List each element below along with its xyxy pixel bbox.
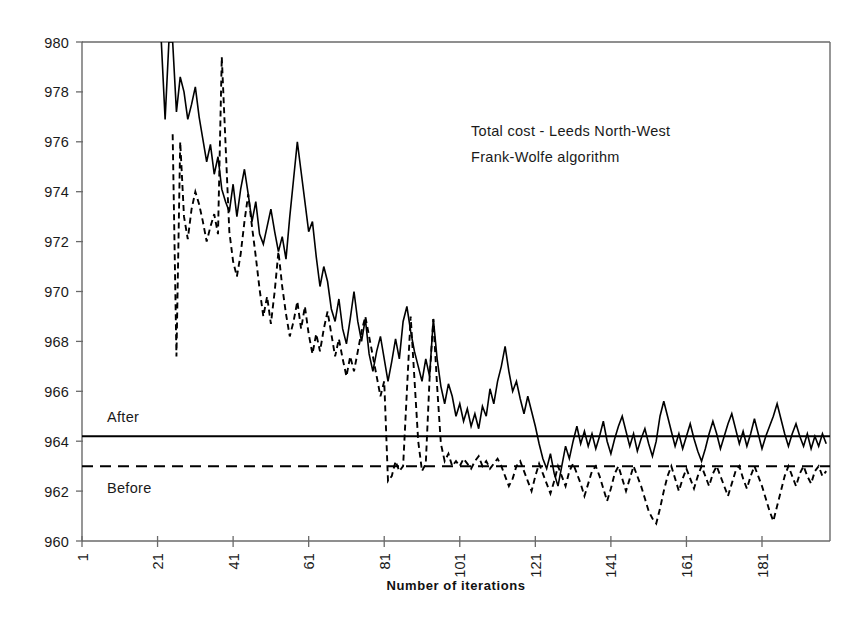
chart-background (0, 0, 868, 620)
x-tick-label: 181 (755, 553, 771, 578)
total-cost-line-chart: 960962964966968970972974976978980 121416… (0, 0, 868, 620)
reference-label-before: Before (107, 480, 152, 496)
y-tick-label: 962 (44, 484, 69, 500)
x-axis-title: Number of iterations (386, 578, 525, 593)
chart-figure: 960962964966968970972974976978980 121416… (0, 0, 868, 620)
x-tick-label: 161 (679, 553, 695, 578)
y-tick-label: 976 (44, 134, 69, 150)
chart-title: Total cost - Leeds North-West (471, 123, 670, 139)
y-tick-label: 968 (44, 334, 69, 350)
x-tick-label: 1 (75, 553, 91, 561)
chart-subtitle: Frank-Wolfe algorithm (471, 149, 620, 165)
x-tick-label: 121 (528, 553, 544, 578)
y-tick-label: 972 (44, 234, 69, 250)
y-tick-label: 960 (44, 534, 69, 550)
y-tick-label: 970 (44, 284, 69, 300)
reference-label-after: After (107, 409, 139, 425)
x-tick-label: 61 (301, 553, 317, 570)
x-tick-label: 81 (377, 553, 393, 570)
x-tick-label: 21 (150, 553, 166, 570)
y-tick-label: 978 (44, 84, 69, 100)
x-tick-label: 41 (226, 553, 242, 570)
y-tick-label: 966 (44, 384, 69, 400)
y-tick-label: 980 (44, 35, 69, 51)
x-tick-label: 101 (452, 553, 468, 578)
y-tick-label: 974 (44, 184, 69, 200)
x-tick-label: 141 (603, 553, 619, 578)
y-tick-label: 964 (44, 434, 69, 450)
